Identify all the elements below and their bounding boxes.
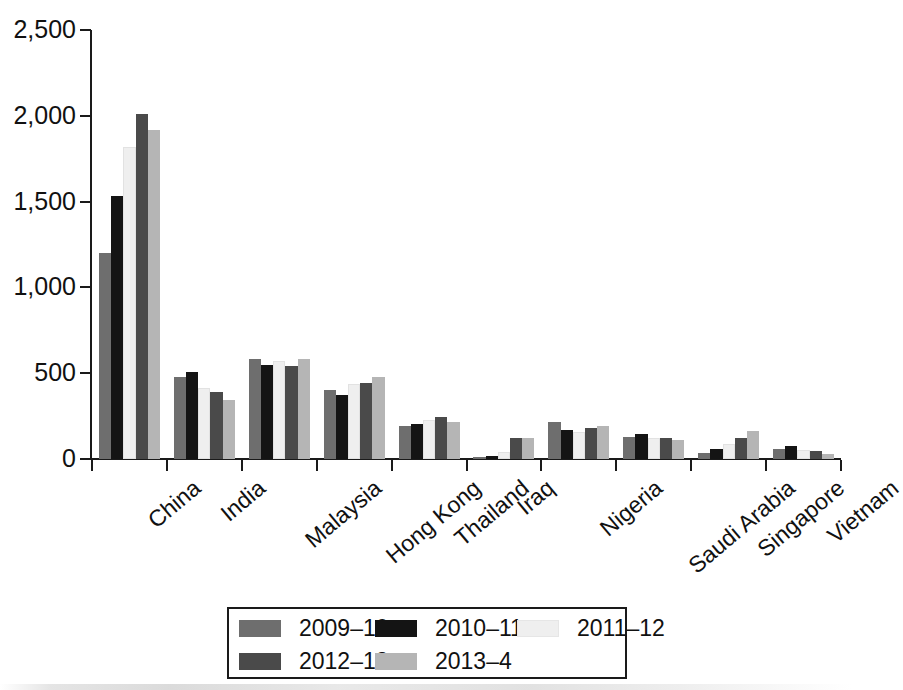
bar bbox=[411, 424, 423, 459]
bar bbox=[510, 438, 522, 459]
x-axis-tick bbox=[166, 460, 168, 471]
legend-swatch bbox=[239, 653, 281, 670]
bar bbox=[360, 383, 372, 459]
x-axis-tick bbox=[241, 460, 243, 471]
bar bbox=[648, 438, 660, 459]
bar bbox=[273, 361, 285, 459]
y-axis-tick bbox=[80, 286, 91, 288]
y-axis-tick bbox=[80, 115, 91, 117]
y-axis-tick-label: 500 bbox=[0, 360, 76, 385]
bar bbox=[111, 196, 123, 459]
legend-item: 2011–12 bbox=[517, 615, 665, 641]
bar bbox=[298, 359, 310, 459]
bar-cluster-india bbox=[174, 30, 235, 459]
bar-cluster-hong-kong bbox=[324, 30, 385, 459]
bar bbox=[797, 450, 809, 459]
legend-item: 2013–4 bbox=[375, 648, 512, 674]
y-axis-tick-label: 1,500 bbox=[0, 189, 76, 214]
x-axis-tick bbox=[91, 460, 93, 471]
y-axis-tick bbox=[80, 29, 91, 31]
bar-cluster-malaysia bbox=[249, 30, 310, 459]
bar bbox=[486, 456, 498, 459]
bar bbox=[623, 437, 635, 459]
bar bbox=[573, 432, 585, 459]
bar bbox=[672, 440, 684, 459]
bar bbox=[148, 130, 160, 459]
y-axis-tick-label: 1,000 bbox=[0, 274, 76, 299]
plot-area bbox=[91, 30, 840, 459]
x-axis-tick bbox=[690, 460, 692, 471]
legend-swatch bbox=[375, 653, 417, 670]
legend-swatch bbox=[239, 620, 281, 637]
bar bbox=[810, 451, 822, 459]
bar bbox=[210, 392, 222, 459]
bar bbox=[785, 446, 797, 459]
bar bbox=[585, 428, 597, 459]
bar-cluster-nigeria bbox=[548, 30, 609, 459]
bar bbox=[522, 438, 534, 459]
x-axis-tick bbox=[765, 460, 767, 471]
bar bbox=[123, 147, 135, 459]
bar bbox=[423, 420, 435, 459]
bar bbox=[435, 417, 447, 459]
bar bbox=[698, 453, 710, 459]
bar bbox=[773, 449, 785, 459]
bar bbox=[561, 430, 573, 459]
x-axis-tick bbox=[840, 460, 842, 471]
x-axis-label-nigeria: Nigeria bbox=[596, 476, 667, 540]
x-axis-tick bbox=[540, 460, 542, 471]
bar bbox=[174, 377, 186, 459]
legend-item: 2009–10 bbox=[239, 615, 389, 641]
x-axis-tick bbox=[615, 460, 617, 471]
bar bbox=[136, 114, 148, 459]
bar bbox=[336, 395, 348, 459]
bar bbox=[710, 449, 722, 459]
bar bbox=[186, 372, 198, 459]
y-axis-tick-label: 2,500 bbox=[0, 17, 76, 42]
y-axis-tick bbox=[80, 372, 91, 374]
bar bbox=[597, 426, 609, 459]
bar bbox=[498, 452, 510, 459]
bar bbox=[372, 377, 384, 459]
legend-label: 2010–11 bbox=[435, 617, 523, 640]
bar-cluster-china bbox=[99, 30, 160, 459]
bar-cluster-singapore bbox=[698, 30, 759, 459]
y-axis-tick-label: 2,000 bbox=[0, 103, 76, 128]
y-axis-tick bbox=[80, 201, 91, 203]
bar bbox=[447, 422, 459, 459]
bar bbox=[249, 359, 261, 459]
bar bbox=[399, 426, 411, 459]
chart-legend: 2009–102010–112011–122012–132013–4 bbox=[227, 607, 627, 679]
bar bbox=[285, 366, 297, 459]
bar-cluster-thailand bbox=[399, 30, 460, 459]
bar bbox=[348, 384, 360, 459]
bar bbox=[660, 438, 672, 459]
bar bbox=[324, 390, 336, 459]
x-axis-tick bbox=[466, 460, 468, 471]
x-axis-tick bbox=[391, 460, 393, 471]
bar bbox=[198, 388, 210, 459]
bar bbox=[735, 438, 747, 459]
page-edge-artifact bbox=[0, 684, 851, 690]
bar bbox=[473, 457, 485, 459]
bar bbox=[635, 434, 647, 459]
y-axis-tick bbox=[80, 458, 91, 460]
bar-cluster-vietnam bbox=[773, 30, 834, 459]
x-axis-label-china: China bbox=[144, 476, 205, 532]
bar bbox=[747, 431, 759, 459]
y-axis-tick-label: 0 bbox=[0, 446, 76, 471]
legend-swatch bbox=[375, 620, 417, 637]
legend-label: 2011–12 bbox=[577, 617, 665, 640]
legend-swatch bbox=[517, 620, 559, 637]
x-axis-tick bbox=[316, 460, 318, 471]
bar bbox=[261, 365, 273, 459]
bar-cluster-iraq bbox=[473, 30, 534, 459]
legend-label: 2013–4 bbox=[435, 650, 512, 673]
bar bbox=[99, 253, 111, 459]
legend-item: 2012–13 bbox=[239, 648, 389, 674]
bar-cluster-saudi-arabia bbox=[623, 30, 684, 459]
legend-item: 2010–11 bbox=[375, 615, 523, 641]
bar bbox=[223, 400, 235, 459]
bar bbox=[723, 444, 735, 459]
